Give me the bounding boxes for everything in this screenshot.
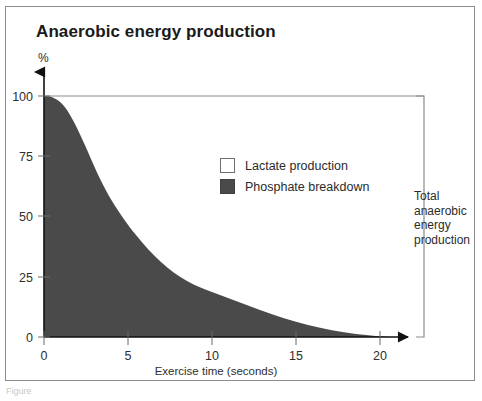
y-tick-label-100: 100 [12,90,33,104]
x-tick-label-10: 10 [205,349,219,363]
phosphate-breakdown-area [44,96,392,337]
legend-label-lactate: Lactate production [245,159,348,173]
x-tick-label-5: 5 [125,349,132,363]
x-tick-label-20: 20 [373,349,387,363]
y-tick-label-50: 50 [19,210,33,224]
legend-label-phosphate: Phosphate breakdown [245,180,369,194]
x-axis-title: Exercise time (seconds) [155,365,278,377]
legend-item-phosphate: Phosphate breakdown [220,177,369,196]
bracket-line-2: anaerobic [414,204,476,219]
chart-plot-area: 100 75 50 25 0 0 5 10 15 20 Exercise tim… [0,0,482,401]
figure-caption: Figure [6,386,32,396]
bracket-line-4: production [414,233,476,248]
y-tick-label-0: 0 [26,331,33,345]
bracket-line-1: Total [414,189,476,204]
x-tick-label-0: 0 [41,349,48,363]
legend-swatch-lactate-icon [220,158,235,173]
y-tick-label-25: 25 [19,271,33,285]
bracket-line-3: energy [414,218,476,233]
legend-swatch-phosphate-icon [220,179,235,194]
figure-root: Anaerobic energy production % 10 [0,0,482,401]
y-tick-label-75: 75 [19,150,33,164]
chart-legend: Lactate production Phosphate breakdown [220,156,369,198]
bracket-annotation-label: Total anaerobic energy production [414,189,476,247]
x-tick-label-15: 15 [289,349,303,363]
legend-item-lactate: Lactate production [220,156,369,175]
